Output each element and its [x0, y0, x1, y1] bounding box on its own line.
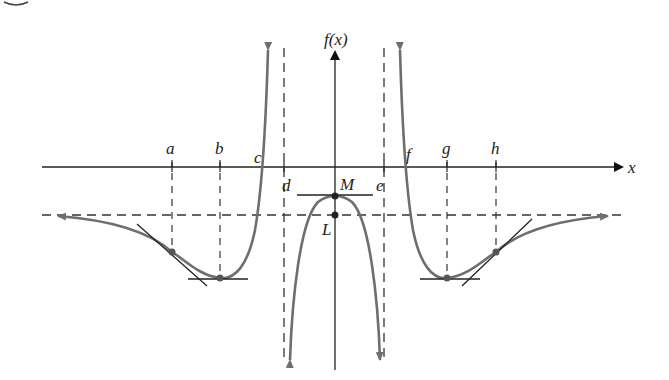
function-graph: f(x) x a b c d e f g h M L — [0, 0, 669, 380]
point-g — [444, 275, 451, 282]
curve-right-branch — [400, 50, 608, 278]
label-M: M — [339, 175, 355, 194]
label-L: L — [321, 220, 331, 239]
point-a — [169, 249, 176, 256]
point-M — [332, 193, 339, 200]
label-a: a — [166, 139, 175, 158]
label-g: g — [442, 139, 451, 158]
label-d: d — [282, 176, 291, 195]
label-b: b — [215, 139, 224, 158]
label-e: e — [376, 176, 384, 195]
point-L — [332, 212, 339, 219]
label-h: h — [491, 139, 500, 158]
curve-left-branch — [58, 50, 268, 278]
point-b — [217, 275, 224, 282]
corner-circle-fragment — [4, 2, 28, 5]
label-f: f — [406, 145, 413, 164]
y-axis-label: f(x) — [324, 30, 348, 49]
point-h — [493, 249, 500, 256]
x-axis-label: x — [627, 158, 636, 177]
label-c: c — [254, 148, 262, 167]
